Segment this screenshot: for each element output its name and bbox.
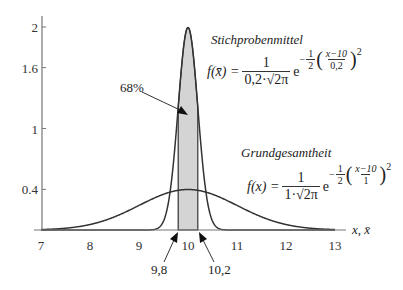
shaded-68-region — [178, 28, 198, 230]
inner-num: x−10 — [324, 48, 349, 59]
exponent: − 1 2 ( x−10 0,2 ) 2 — [300, 48, 362, 71]
population-title: Grundgesamtheit — [241, 145, 331, 161]
x-ticks: 78910111213 — [38, 238, 342, 253]
percent-arrow — [142, 92, 180, 110]
formula-fraction: 1 1·√2π — [282, 170, 319, 203]
inner-den: 0,2 — [328, 59, 345, 71]
formula-lhs: f(x) = — [247, 179, 279, 195]
exp-den: 2 — [306, 59, 315, 71]
y-tick-label: 1.6 — [22, 61, 39, 76]
x-axis-label: x, x̄ — [352, 222, 370, 238]
exp-den: 2 — [336, 174, 345, 186]
x-tick-label: 12 — [280, 238, 293, 253]
formula-lhs: f(x̄) = — [207, 64, 239, 80]
x-tick-label: 7 — [38, 238, 45, 253]
denominator: 1·√2π — [282, 186, 319, 203]
y-tick-label: 1 — [32, 122, 39, 137]
exp-num: 1 — [306, 48, 315, 59]
exp-fraction: 1 2 — [306, 48, 315, 71]
numerator: 1 — [296, 170, 307, 186]
upper-bound-arrow — [203, 240, 214, 262]
upper-bound-arrow-head — [199, 232, 207, 243]
power: 2 — [386, 161, 391, 172]
normal-distribution-chart: 0.411.62 78910111213 — [0, 0, 403, 290]
x-tick-label: 8 — [87, 238, 94, 253]
inner-fraction: x−10 0,2 — [324, 48, 349, 71]
population-formula: f(x) = 1 1·√2π e − 1 2 ( x−10 1 ) 2 — [247, 170, 391, 203]
exp-sign: − — [329, 169, 335, 180]
formula-fraction: 1 0,2·√2π — [242, 55, 290, 88]
power: 2 — [357, 46, 362, 57]
x-tick-label: 10 — [182, 238, 195, 253]
upper-bound-label: 10,2 — [208, 262, 231, 278]
percent-label: 68% — [120, 80, 144, 96]
y-tick-label: 0.4 — [22, 182, 39, 197]
lower-bound-label: 9,8 — [151, 262, 167, 278]
lower-bound-arrow — [164, 240, 174, 262]
denominator: 0,2·√2π — [242, 71, 290, 88]
inner-fraction: x−10 1 — [353, 163, 378, 186]
y-tick-label: 2 — [32, 20, 39, 35]
exp-sign: − — [300, 54, 306, 65]
x-tick-label: 9 — [136, 238, 143, 253]
exp-fraction: 1 2 — [336, 163, 345, 186]
numerator: 1 — [261, 55, 272, 71]
inner-num: x−10 — [353, 163, 378, 174]
x-tick-label: 13 — [329, 238, 342, 253]
exponent: − 1 2 ( x−10 1 ) 2 — [329, 163, 391, 186]
sample-formula: f(x̄) = 1 0,2·√2π e − 1 2 ( x−10 0,2 ) 2 — [207, 55, 362, 88]
lower-bound-arrow-head — [170, 232, 178, 243]
sample-title: Stichprobenmittel — [211, 32, 303, 48]
inner-den: 1 — [361, 174, 370, 186]
exp-num: 1 — [336, 163, 345, 174]
x-tick-label: 11 — [231, 238, 244, 253]
